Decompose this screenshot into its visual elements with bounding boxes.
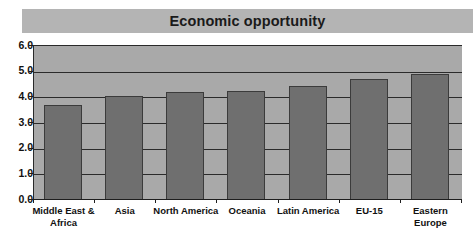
bar-slot bbox=[401, 46, 462, 200]
bar bbox=[44, 105, 82, 200]
y-axis: 0.01.02.03.04.05.06.0 bbox=[0, 0, 33, 240]
x-tick-mark bbox=[339, 199, 340, 203]
x-tick-mark bbox=[33, 199, 34, 203]
bar-slot bbox=[217, 46, 278, 200]
bar-slot bbox=[95, 46, 156, 200]
x-tick-mark bbox=[461, 199, 462, 203]
chart-title: Economic opportunity bbox=[170, 13, 326, 29]
bar-series bbox=[34, 46, 462, 200]
x-tick-label: Eastern Europe bbox=[394, 205, 467, 228]
bar bbox=[289, 86, 327, 200]
x-tick-mark bbox=[155, 199, 156, 203]
x-axis: Middle East & AfricaAsiaNorth AmericaOce… bbox=[33, 199, 462, 240]
x-tick-mark bbox=[94, 199, 95, 203]
bar-slot bbox=[340, 46, 401, 200]
bar bbox=[411, 74, 449, 200]
x-tick-mark bbox=[216, 199, 217, 203]
bar bbox=[350, 79, 388, 200]
bar bbox=[227, 91, 265, 200]
bar bbox=[105, 96, 143, 200]
bar-slot bbox=[34, 46, 95, 200]
bar-slot bbox=[156, 46, 217, 200]
bar-slot bbox=[279, 46, 340, 200]
x-tick-mark bbox=[400, 199, 401, 203]
x-tick-mark bbox=[278, 199, 279, 203]
bar bbox=[166, 92, 204, 200]
plot-area bbox=[33, 45, 462, 200]
chart-title-bar: Economic opportunity bbox=[22, 9, 473, 33]
